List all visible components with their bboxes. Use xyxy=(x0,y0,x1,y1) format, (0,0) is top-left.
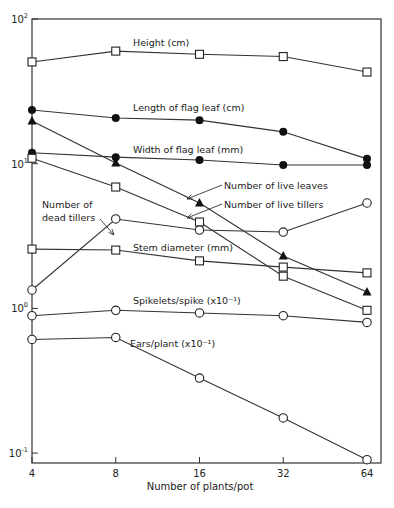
series-label: Length of flag leaf (cm) xyxy=(133,102,244,113)
circle-marker-icon xyxy=(363,456,371,464)
triangle-marker-icon xyxy=(363,287,372,296)
circle-marker-icon xyxy=(363,318,371,326)
circle-marker-icon xyxy=(28,312,36,320)
triangle-marker-icon xyxy=(195,198,204,207)
y-tick-label: 101 xyxy=(11,157,28,170)
annotation-arrows xyxy=(100,185,222,235)
square-marker-icon xyxy=(363,269,371,277)
circle-marker-icon xyxy=(28,335,36,343)
square-marker-icon xyxy=(363,68,371,76)
series-labels: Height (cm)Length of flag leaf (cm)Width… xyxy=(42,37,328,349)
filled-circle-marker-icon xyxy=(112,114,120,122)
series-label: Ears/plant (x10⁻¹) xyxy=(130,338,215,349)
circle-marker-icon xyxy=(195,374,203,382)
plot-frame xyxy=(32,19,381,463)
square-marker-icon xyxy=(28,245,36,253)
circle-marker-icon xyxy=(112,215,120,223)
filled-circle-marker-icon xyxy=(196,156,204,164)
y-tick-label: 100 xyxy=(11,301,28,314)
annotation-arrow-line xyxy=(187,185,222,199)
circle-marker-icon xyxy=(279,228,287,236)
circle-marker-icon xyxy=(363,199,371,207)
series-line xyxy=(32,337,367,459)
circle-marker-icon xyxy=(112,306,120,314)
filled-circle-marker-icon xyxy=(363,161,371,169)
series-label: Number of live leaves xyxy=(224,180,328,191)
y-tick-label: 102 xyxy=(11,12,28,25)
chart-canvas: 4816326410210110010-1 Height (cm)Length … xyxy=(0,0,394,508)
square-marker-icon xyxy=(279,272,287,280)
x-tick-label: 16 xyxy=(193,468,206,479)
dead-tillers-label: dead tillers xyxy=(42,212,95,223)
square-marker-icon xyxy=(196,218,204,226)
series-label: Height (cm) xyxy=(133,37,189,48)
filled-circle-marker-icon xyxy=(279,161,287,169)
series-label: Spikelets/spike (x10⁻¹) xyxy=(133,295,241,306)
x-tick-label: 4 xyxy=(29,468,35,479)
series-label: Width of flag leaf (mm) xyxy=(133,144,243,155)
triangle-marker-icon xyxy=(28,116,37,125)
series-label: Stem diameter (mm) xyxy=(133,242,233,253)
triangle-marker-icon xyxy=(279,251,288,260)
circle-marker-icon xyxy=(195,226,203,234)
square-marker-icon xyxy=(196,257,204,265)
square-marker-icon xyxy=(363,306,371,314)
square-marker-icon xyxy=(112,47,120,55)
x-tick-label: 32 xyxy=(277,468,290,479)
filled-circle-marker-icon xyxy=(279,128,287,136)
filled-circle-marker-icon xyxy=(28,106,36,114)
x-axis-label: Number of plants/pot xyxy=(147,481,254,492)
square-marker-icon xyxy=(28,154,36,162)
circle-marker-icon xyxy=(195,309,203,317)
square-marker-icon xyxy=(279,263,287,271)
square-marker-icon xyxy=(112,246,120,254)
x-tick-label: 64 xyxy=(361,468,374,479)
circle-marker-icon xyxy=(112,333,120,341)
square-marker-icon xyxy=(112,183,120,191)
dead-tillers-label: Number of xyxy=(42,199,93,210)
plot-border xyxy=(32,19,381,463)
circle-marker-icon xyxy=(28,286,36,294)
square-marker-icon xyxy=(28,58,36,66)
x-tick-label: 8 xyxy=(113,468,119,479)
square-marker-icon xyxy=(279,53,287,61)
filled-circle-marker-icon xyxy=(196,116,204,124)
series-label: Number of live tillers xyxy=(224,199,324,210)
circle-marker-icon xyxy=(279,414,287,422)
square-marker-icon xyxy=(196,50,204,58)
circle-marker-icon xyxy=(279,312,287,320)
y-tick-label: 10-1 xyxy=(9,446,28,459)
